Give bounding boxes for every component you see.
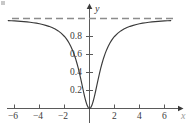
x-tick-label: −4 xyxy=(33,112,43,122)
x-axis-label: x xyxy=(181,111,185,121)
y-tick-label: 0.2 xyxy=(70,86,82,96)
y-axis-arrowhead xyxy=(87,4,93,10)
y-tick-label: 0.4 xyxy=(70,68,82,78)
x-tick-label: 6 xyxy=(162,112,167,122)
x-tick-label: 2 xyxy=(112,112,117,122)
axes-group xyxy=(7,4,184,124)
y-tick-label: 0.6 xyxy=(70,50,82,60)
plot-canvas xyxy=(0,0,187,129)
x-tick-label: 4 xyxy=(137,112,142,122)
data-curve-right-branch xyxy=(90,21,171,109)
y-axis-label: y xyxy=(95,4,99,14)
x-tick-label: −2 xyxy=(58,112,68,122)
chart-figure: −6 −4 −2 2 4 6 0.2 0.4 0.6 0.8 y x xyxy=(0,0,187,129)
y-tick-label: 0.8 xyxy=(70,32,82,42)
x-tick-label: −6 xyxy=(8,112,18,122)
